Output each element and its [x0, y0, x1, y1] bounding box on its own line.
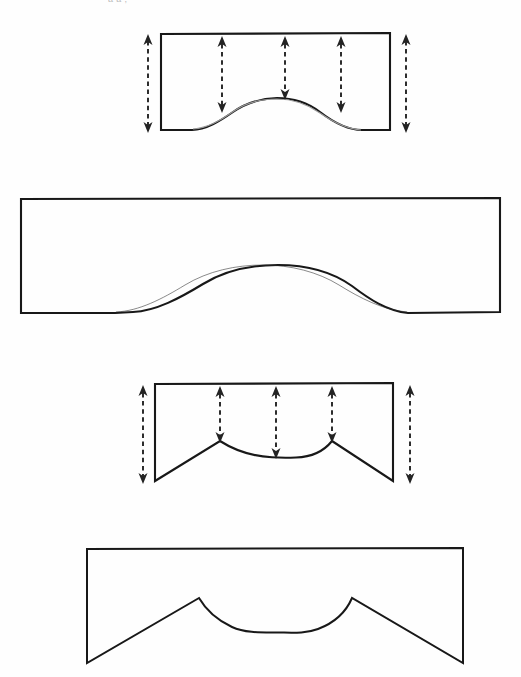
sketch-sheet: a a , — [0, 0, 521, 677]
dimension-cusp-height-right — [328, 386, 337, 443]
dimension-overall-height-left — [139, 385, 148, 484]
figure-2-segmental-arch-wide — [21, 198, 500, 313]
figure-3-cusped-arch-narrow — [139, 383, 415, 484]
figure-1-segmental-arch-narrow — [144, 33, 411, 133]
dimension-overall-height-left — [144, 34, 153, 133]
dimension-cusp-height-left — [216, 386, 225, 443]
clipped-header-text: a a , — [108, 0, 408, 8]
drawing-canvas — [0, 0, 521, 677]
figure-4-cusped-arch-wide — [87, 548, 463, 663]
dimension-soffit-rise-center — [272, 386, 281, 459]
dimension-overall-height-right — [406, 385, 415, 484]
figure-1-wall-outline — [161, 33, 390, 130]
dimension-haunch-height-right — [337, 36, 346, 113]
figure-1-dimension-arrows — [144, 34, 411, 133]
dimension-overall-height-right — [402, 34, 411, 133]
dimension-haunch-height-left — [218, 36, 227, 113]
figure-3-wall-outline — [155, 383, 393, 481]
dimension-crown-rise-center — [281, 36, 290, 100]
